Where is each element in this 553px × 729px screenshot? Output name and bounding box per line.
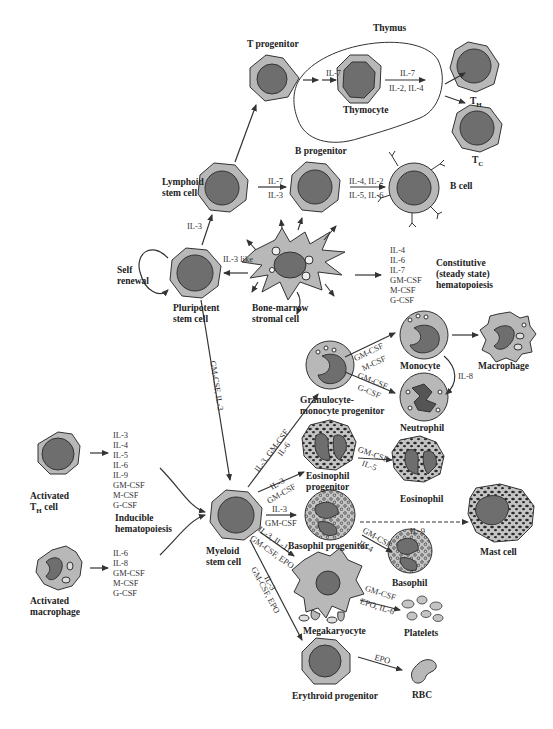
mac-cytokine: GM-CSF: [113, 568, 145, 578]
pluripotent-label: Pluripotentstem cell: [173, 303, 219, 325]
cytokine-bprog-bcell-top: IL-4, IL-2: [349, 176, 383, 186]
b-cell: [377, 151, 445, 227]
monocyte-cell: [400, 311, 448, 359]
cytokine-pluri-lymphoid: IL-3: [187, 221, 202, 231]
eos-progenitor-line-2: progenitor: [306, 482, 349, 493]
basophil-label: Basophil: [392, 578, 427, 589]
neutrophil-label: Neutrophil: [400, 423, 444, 434]
cytokine-myeloid-baso-bottom: GM-CSF: [265, 518, 297, 528]
basophil-progenitor-cell: [305, 490, 355, 540]
mac-cytokine: M-CSF: [113, 578, 145, 588]
activated-mac-label: Activatedmacrophage: [30, 596, 80, 618]
gm-progenitor-label: Granulocyte-monocyte progenitor: [300, 395, 385, 417]
stromal-line-1: Bone-marrow: [252, 303, 308, 314]
self-renewal-line-2: renewal: [117, 276, 149, 287]
mac-cytokine: G-CSF: [113, 588, 145, 598]
activated-mac-line-1: Activated: [30, 596, 80, 607]
lymphoid-line-2: stem cell: [162, 188, 204, 199]
th-cytokine: IL-9: [113, 470, 145, 480]
inducible-label: Induciblehematopoiesis: [115, 513, 172, 535]
stromal-cytokine: IL-4: [390, 245, 422, 255]
tc-cell: [452, 105, 502, 152]
pluripotent-line-1: Pluripotent: [173, 303, 219, 314]
t-progenitor-cell: [250, 55, 299, 101]
constitutive-line-1: Constitutive: [436, 258, 493, 269]
lymphoid-line-1: Lymphoid: [162, 177, 204, 188]
pluripotent-stem-cell: [170, 248, 221, 298]
mac-cytokine: IL-8: [113, 558, 145, 568]
stromal-cytokine: IL-6: [390, 255, 422, 265]
inducible-line-2: hematopoiesis: [115, 524, 172, 535]
monocyte-label: Monocyte: [400, 361, 440, 372]
myeloid-line-2: stem cell: [206, 557, 241, 568]
pluripotent-line-2: stem cell: [173, 314, 219, 325]
myeloid-label: Myeloidstem cell: [206, 546, 241, 568]
mast-cell: [468, 484, 534, 542]
cytokine-mono-neut: IL-8: [458, 371, 473, 381]
self-renewal-line-1: Self: [117, 265, 149, 276]
b-progenitor-cell: [290, 162, 340, 212]
eosinophil-progenitor-cell: [302, 420, 356, 470]
stromal-cytokine: GM-CSF: [390, 275, 422, 285]
th-cytokine: GM-CSF: [113, 480, 145, 490]
tc-label: TC: [472, 155, 483, 170]
cytokine-lymphoid-bprog-top: IL-7: [268, 176, 283, 186]
thymocyte-label: Thymocyte: [343, 105, 388, 116]
stromal-cytokine: G-CSF: [390, 295, 422, 305]
gm-progenitor-cell: [306, 341, 354, 389]
t-progenitor-label: T progenitor: [247, 39, 299, 50]
rbc-cell: [411, 660, 436, 683]
activated-mac-line-2: macrophage: [30, 607, 80, 618]
lymphoid-label: Lymphoidstem cell: [162, 177, 204, 199]
cytokine-stromal-pluri: IL-3 like: [223, 254, 253, 264]
megakaryocyte-cell: [292, 548, 364, 623]
activated-th-line-1: Activated: [30, 491, 69, 502]
cytokine-lymphoid-bprog-bottom: IL-3: [268, 190, 283, 200]
activated-th-cell-word: cell: [42, 502, 58, 512]
hematopoiesis-diagram: Thymus T progenitor Thymocyte TH TC B pr…: [0, 0, 553, 729]
erythroid-label: Erythroid progenitor: [292, 691, 378, 702]
th-cell: [450, 42, 499, 92]
megakaryocyte-label: Megakaryocyte: [303, 626, 366, 637]
activated-th-cell: [38, 432, 80, 474]
cytokine-thymocyte-bottom: IL-2, IL-4: [389, 83, 423, 93]
tc-subscript: C: [478, 160, 483, 168]
activated-th-label: ActivatedTH cell: [30, 491, 69, 517]
gm-progenitor-line-2: monocyte progenitor: [300, 406, 385, 417]
cytokine-tprog-thymocyte: IL-7: [326, 68, 341, 78]
macrophage-label: Macrophage: [478, 361, 529, 372]
thymocyte-cell: [337, 55, 381, 103]
mac-cytokine: IL-6: [113, 548, 145, 558]
platelets: [402, 596, 443, 622]
cytokine-mac-list: IL-6 IL-8 GM-CSF M-CSF G-CSF: [113, 548, 145, 598]
constitutive-line-2: (steady state): [436, 269, 493, 280]
th-cytokine: G-CSF: [113, 500, 145, 510]
eosinophil-cell: [392, 436, 444, 482]
constitutive-label: Constitutive(steady state)hematopoiesis: [436, 258, 493, 291]
b-progenitor-label: B progenitor: [295, 146, 347, 157]
activated-th-line-2: TH cell: [30, 502, 69, 517]
eos-progenitor-line-1: Eosinophil: [306, 471, 349, 482]
inducible-line-1: Inducible: [115, 513, 172, 524]
th-cytokine: IL-3: [113, 430, 145, 440]
mast-cell-label: Mast cell: [480, 547, 517, 558]
myeloid-line-1: Myeloid: [206, 546, 241, 557]
neutrophil-cell: [400, 373, 448, 421]
rbc-label: RBC: [412, 690, 432, 701]
th-cytokine: IL-5: [113, 450, 145, 460]
eos-progenitor-label: Eosinophilprogenitor: [306, 471, 349, 493]
th-cytokine: IL-4: [113, 440, 145, 450]
cytokine-th-list: IL-3 IL-4 IL-5 IL-6 IL-9 GM-CSF M-CSF G-…: [113, 430, 145, 510]
stromal-label: Bone-marrowstromal cell: [252, 303, 308, 325]
activated-macrophage-cell: [36, 546, 82, 590]
constitutive-line-3: hematopoiesis: [436, 280, 493, 291]
th-label: TH: [470, 96, 482, 111]
self-renewal-label: Selfrenewal: [117, 265, 149, 287]
macrophage-cell: [480, 312, 536, 362]
cytokine-mast: IL-9: [410, 526, 425, 536]
platelets-label: Platelets: [404, 628, 438, 639]
th-cytokine: M-CSF: [113, 490, 145, 500]
cytokine-thymocyte-top: IL-7: [400, 68, 415, 78]
erythroid-progenitor-cell: [302, 638, 350, 684]
th-cytokine: IL-6: [113, 460, 145, 470]
